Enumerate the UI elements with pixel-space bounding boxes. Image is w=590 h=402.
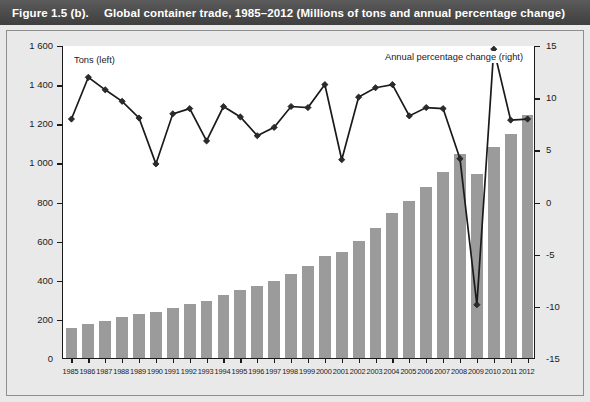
data-point-marker xyxy=(153,161,159,167)
x-axis-tickmark xyxy=(376,358,377,363)
figure-number: Figure 1.5 (b). xyxy=(12,7,89,19)
bar xyxy=(403,201,415,358)
bar xyxy=(386,213,398,358)
y-axis-right-tick-label: 10 xyxy=(546,92,557,103)
legend-line: Annual percentage change (right) xyxy=(382,51,526,63)
x-axis-tickmark xyxy=(122,358,123,363)
x-axis-tickmark xyxy=(156,358,157,363)
y-axis-left-tick-label: 800 xyxy=(7,197,53,208)
y-axis-left-tick-label: 400 xyxy=(7,275,53,286)
x-axis-tickmark xyxy=(342,358,343,363)
y-axis-left-tick-label: 1 600 xyxy=(7,40,53,51)
x-axis-tickmark xyxy=(426,358,427,363)
x-axis-tickmark xyxy=(173,358,174,363)
y-axis-right-tickmark xyxy=(535,46,540,47)
data-point-marker xyxy=(237,114,243,120)
x-axis-tickmark xyxy=(409,358,410,363)
x-axis-tickmark xyxy=(291,358,292,363)
x-axis-tickmark xyxy=(308,358,309,363)
bar xyxy=(201,301,213,358)
y-axis-right-tickmark xyxy=(535,203,540,204)
data-point-marker xyxy=(305,104,311,110)
bar xyxy=(420,187,432,358)
y-axis-right-tick-label: 0 xyxy=(546,197,551,208)
data-point-marker xyxy=(339,157,345,163)
bar xyxy=(218,295,230,358)
bar xyxy=(319,256,331,358)
y-axis-right-tickmark xyxy=(535,307,540,308)
figure-container: Figure 1.5 (b). Global container trade, … xyxy=(0,0,590,402)
x-axis-tickmark xyxy=(190,358,191,363)
data-point-marker xyxy=(508,117,514,123)
data-point-marker xyxy=(136,115,142,121)
x-axis-tickmark xyxy=(359,358,360,363)
bar xyxy=(66,328,78,358)
x-axis-tickmark xyxy=(392,358,393,363)
x-axis-tickmark xyxy=(223,358,224,363)
data-point-marker xyxy=(271,124,277,130)
y-axis-left-tick-label: 1 000 xyxy=(7,157,53,168)
x-axis-tickmark xyxy=(105,358,106,363)
y-axis-right-tick-label: -10 xyxy=(546,301,560,312)
bar xyxy=(133,314,145,358)
x-axis-tickmark xyxy=(274,358,275,363)
data-point-marker xyxy=(119,98,125,104)
bar xyxy=(471,174,483,358)
data-point-marker xyxy=(203,138,209,144)
chart-frame: 1 6001 4001 2001 0008006004002000 151050… xyxy=(6,30,584,396)
y-axis-left-tick-label: 1 400 xyxy=(7,79,53,90)
y-axis-left-tick-label: 200 xyxy=(7,314,53,325)
bar xyxy=(522,115,534,358)
bar xyxy=(268,281,280,358)
data-point-marker xyxy=(220,103,226,109)
x-axis-tickmark xyxy=(528,358,529,363)
y-axis-left-tick-label: 600 xyxy=(7,236,53,247)
data-point-marker xyxy=(322,82,328,88)
plot-area: Tons (left) Annual percentage change (ri… xyxy=(62,46,535,359)
data-point-marker xyxy=(372,85,378,91)
data-point-marker xyxy=(440,106,446,112)
data-point-marker xyxy=(68,116,74,122)
y-axis-right-tickmark xyxy=(535,98,540,99)
bar xyxy=(488,147,500,358)
x-axis-tickmark xyxy=(443,358,444,363)
x-axis-tickmark xyxy=(494,358,495,363)
y-axis-right-tick-label: -5 xyxy=(546,249,554,260)
bar xyxy=(184,304,196,358)
data-point-marker xyxy=(406,113,412,119)
y-axis-left-tick-label: 1 200 xyxy=(7,118,53,129)
y-axis-right-tick-label: 5 xyxy=(546,144,551,155)
x-axis-tickmark xyxy=(460,358,461,363)
bar xyxy=(116,317,128,358)
legend-bars: Tons (left) xyxy=(71,54,118,66)
bar xyxy=(150,312,162,358)
x-axis-tickmark xyxy=(257,358,258,363)
figure-title-bar: Figure 1.5 (b). Global container trade, … xyxy=(0,0,590,25)
y-axis-right-tickmark xyxy=(535,255,540,256)
x-axis-tickmark xyxy=(325,358,326,363)
data-point-marker xyxy=(254,133,260,139)
y-axis-right-tick-label: -15 xyxy=(546,353,560,364)
y-axis-right-tick-label: 15 xyxy=(546,40,557,51)
page-title: Global container trade, 1985–2012 (Milli… xyxy=(104,7,565,19)
bar xyxy=(302,266,314,358)
data-point-marker xyxy=(187,106,193,112)
data-point-marker xyxy=(423,104,429,110)
x-axis-tickmark xyxy=(477,358,478,363)
bar xyxy=(336,252,348,358)
data-point-marker xyxy=(85,74,91,80)
bar xyxy=(437,172,449,358)
x-axis-tickmark xyxy=(139,358,140,363)
x-axis-tick-label: 2012 xyxy=(516,367,538,376)
bar xyxy=(251,286,263,358)
x-axis-tickmark xyxy=(207,358,208,363)
data-point-marker xyxy=(170,111,176,117)
bar xyxy=(234,290,246,358)
x-axis-tickmark xyxy=(88,358,89,363)
data-point-marker xyxy=(288,103,294,109)
x-axis-tickmark xyxy=(71,358,72,363)
bar xyxy=(285,274,297,358)
bar xyxy=(454,154,466,358)
bar xyxy=(99,321,111,358)
bar xyxy=(370,228,382,358)
